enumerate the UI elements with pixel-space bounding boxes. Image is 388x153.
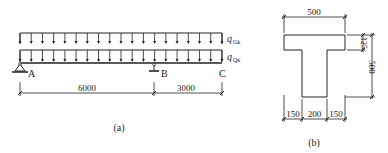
- t-section-outline: [284, 35, 345, 97]
- caption-a: (a): [113, 122, 124, 134]
- pin-support-icon: [12, 63, 28, 72]
- svg-text:Gk: Gk: [233, 39, 240, 45]
- figure-canvas: A B C q Gk q Qk 6000 3000 (a): [0, 0, 388, 153]
- svg-text:q: q: [227, 33, 232, 44]
- svg-text:q: q: [227, 51, 232, 62]
- dimension-150-left: 150: [286, 109, 300, 119]
- point-a-label: A: [28, 68, 36, 79]
- caption-b: (b): [308, 137, 320, 149]
- dimension-150-right: 150: [329, 109, 343, 119]
- dimension-125: 125: [359, 37, 368, 49]
- load-qqk: [19, 50, 224, 62]
- dimension-500-right: 500: [367, 60, 377, 74]
- dimension-200: 200: [308, 109, 322, 119]
- load-qgk: [19, 33, 224, 44]
- dimension-6000: 6000: [78, 83, 97, 93]
- dimension-3000: 3000: [177, 83, 196, 93]
- load-label-qqk: q Qk: [227, 51, 240, 63]
- dimension-500-top: 500: [307, 7, 321, 17]
- t-section-diagram: 500 125 500 150 200 15: [282, 7, 377, 149]
- point-c-label: C: [219, 68, 226, 79]
- load-label-qgk: q Gk: [227, 33, 240, 45]
- roller-support-icon: [149, 63, 159, 71]
- point-b-label: B: [161, 68, 168, 79]
- svg-text:Qk: Qk: [233, 57, 240, 63]
- beam-diagram: A B C q Gk q Qk 6000 3000 (a): [12, 33, 240, 134]
